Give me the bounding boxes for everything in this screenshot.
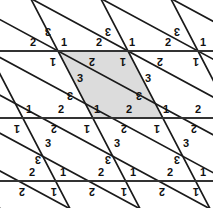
figure-line: [156, 0, 213, 208]
geometry-figure: 2311223112231133331212121212123333332121…: [0, 0, 213, 208]
figure-canvas: [0, 0, 213, 208]
figure-line: [0, 0, 85, 208]
figure-line: [188, 0, 213, 208]
figure-line: [0, 0, 15, 208]
